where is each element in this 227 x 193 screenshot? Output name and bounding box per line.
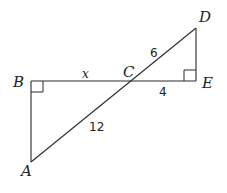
point-label-b: B <box>12 73 24 91</box>
right-angle-marker-e <box>184 70 196 81</box>
right-angle-marker-b <box>31 81 43 92</box>
segment-label-ac: 12 <box>89 120 104 134</box>
segment-label-bc: x <box>82 67 89 81</box>
point-label-e: E <box>201 74 213 92</box>
segment-ad <box>31 28 196 162</box>
segment-label-cd: 6 <box>150 46 158 60</box>
point-label-d: D <box>198 8 211 26</box>
similar-triangles-diagram: B C D E A x 6 4 12 <box>0 0 227 193</box>
point-label-a: A <box>19 162 32 180</box>
point-label-c: C <box>123 63 135 81</box>
segment-label-ce: 4 <box>159 85 167 99</box>
